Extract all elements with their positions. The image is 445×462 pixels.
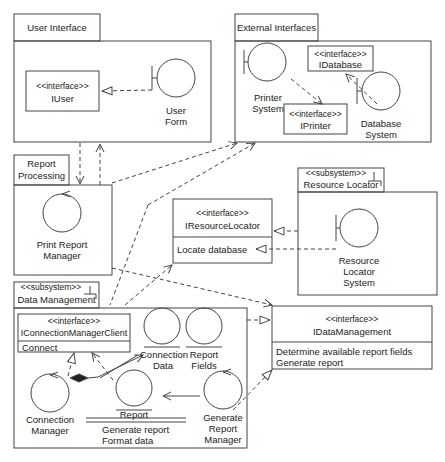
connection-manager-label-1: Connection bbox=[22, 414, 78, 425]
package-data-management-label: Data Management bbox=[14, 294, 99, 305]
iconnectionmanagerclient-name: IConnectionManagerClient bbox=[18, 328, 130, 339]
printer-system-label-2: System bbox=[248, 103, 288, 114]
report-operation-generate-report: Generate report bbox=[102, 424, 169, 435]
report-fields-label-1: Report bbox=[186, 349, 222, 360]
package-resource-locator-stereotype: <<subsystem>> bbox=[298, 168, 374, 179]
user-form-symbol bbox=[152, 59, 195, 97]
connection-manager-label-2: Manager bbox=[22, 425, 78, 436]
uml-diagram: User Interface <<interface>> IUser User … bbox=[0, 0, 445, 462]
diagram-graphics bbox=[0, 0, 445, 462]
resource-locator-system-label-3: System bbox=[334, 277, 384, 288]
connection-data-label-2: Data bbox=[140, 360, 186, 371]
report-name: Report bbox=[116, 409, 152, 420]
report-operation-format-data: Format data bbox=[102, 435, 153, 446]
database-system-label-1: Database bbox=[356, 118, 406, 129]
report-fields-label-2: Fields bbox=[186, 360, 222, 371]
print-report-manager-label-2: Manager bbox=[30, 250, 94, 261]
package-report-processing-label-2: Processing bbox=[14, 170, 69, 181]
connection-data-label-1: Connection bbox=[140, 349, 186, 360]
iprinter-name: IPrinter bbox=[284, 120, 347, 131]
printer-system-label-1: Printer bbox=[248, 92, 288, 103]
idatamanagement-name: IDataManagement bbox=[272, 326, 432, 337]
iconnectionmanagerclient-operation-connect: Connect bbox=[22, 342, 57, 353]
package-user-interface-label: User Interface bbox=[14, 22, 100, 33]
package-report-processing-label-1: Report bbox=[14, 158, 69, 169]
iresourcelocator-operation-locate-database: Locate database bbox=[177, 244, 247, 255]
idatamanagement-stereotype: <<interface>> bbox=[272, 314, 432, 325]
generate-report-manager-label-1: Generate bbox=[201, 412, 245, 423]
generate-report-manager-label-3: Manager bbox=[201, 434, 245, 445]
user-form-label-2: Form bbox=[156, 116, 196, 127]
idatabase-name: IDatabase bbox=[308, 59, 373, 70]
iresourcelocator-name: IResourceLocator bbox=[173, 220, 272, 231]
idatamanagement-operation-2: Generate report bbox=[276, 357, 343, 368]
database-system-label-2: System bbox=[356, 129, 406, 140]
idatamanagement-operation-1: Determine available report fields bbox=[276, 346, 412, 357]
iprinter-stereotype: <<interface>> bbox=[284, 109, 347, 120]
print-report-manager-label-1: Print Report bbox=[30, 239, 94, 250]
resource-locator-system-symbol bbox=[336, 209, 378, 247]
iconnectionmanagerclient-stereotype: <<interface>> bbox=[18, 316, 130, 327]
iresourcelocator-stereotype: <<interface>> bbox=[173, 208, 272, 219]
user-form-label-1: User bbox=[156, 105, 196, 116]
generate-report-manager-label-2: Report bbox=[201, 423, 245, 434]
package-resource-locator-label: Resource Locator bbox=[298, 179, 384, 190]
resource-locator-system-label-2: Locator bbox=[334, 266, 384, 277]
connection-manager-symbol bbox=[31, 372, 69, 412]
resource-locator-system-label-1: Resource bbox=[334, 255, 384, 266]
iuser-stereotype: <<interface>> bbox=[26, 81, 99, 92]
package-data-management-stereotype: <<subsystem>> bbox=[14, 282, 88, 293]
package-external-interfaces-label: External Interfaces bbox=[235, 22, 318, 33]
generate-report-manager-symbol bbox=[204, 369, 242, 409]
connection-data-symbol bbox=[144, 308, 180, 347]
print-report-manager-symbol bbox=[43, 191, 81, 232]
database-system-symbol bbox=[357, 72, 400, 110]
printer-system-symbol bbox=[244, 43, 286, 81]
iuser-name: IUser bbox=[26, 93, 99, 104]
report-fields-symbol bbox=[186, 308, 222, 347]
